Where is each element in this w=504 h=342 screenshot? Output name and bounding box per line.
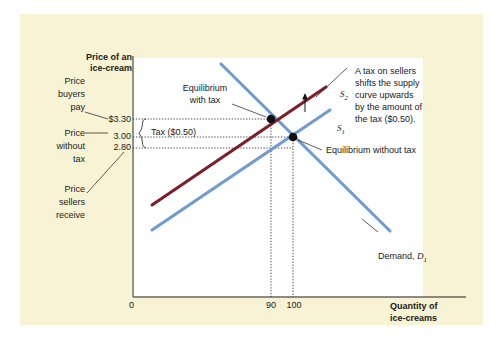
price-sellers-receive-line1: Price [40,184,85,195]
price-without-tax-line2: without [40,141,85,152]
price-tick-330: $3.30 [95,114,131,125]
price-tick-300: 3.00 [95,131,131,142]
price-buyers-pay-line3: pay [40,102,85,113]
supply-s1-label: S1 [327,112,345,149]
tax-bracket-label: Tax ($0.50) [151,127,196,138]
leader-sellers-receive [87,152,124,193]
tax-note-line4: by the amount of [355,102,422,113]
demand-label: Demand, D1 [368,240,427,277]
equilibrium-with-tax-label-line1: Equilibrium [165,83,245,94]
price-without-tax-line1: Price [40,128,85,139]
price-without-tax-line3: tax [40,154,85,165]
price-tick-280: 2.80 [95,142,131,153]
equilibrium-with-tax-label-line2: with tax [165,95,245,106]
y-axis-label-line2: ice-cream [60,63,132,74]
supply-s2-label: S2 [330,78,348,115]
equilibrium-without-tax-point [289,133,298,142]
x-axis-label-line1: Quantity of [390,301,438,312]
origin-label: 0 [129,300,134,311]
figure-root: Price of an ice-cream Price buyers pay $… [0,0,504,342]
x-axis-label-line2: ice-creams [390,313,437,324]
tax-note-line2: shifts the supply [355,78,420,89]
tax-note-line5: the tax ($0.50). [355,114,416,125]
tax-note-line1: A tax on sellers [355,66,416,77]
equilibrium-with-tax-point [267,115,276,124]
price-buyers-pay-line2: buyers [40,89,85,100]
price-sellers-receive-line3: receive [40,210,85,221]
price-sellers-receive-line2: sellers [40,197,85,208]
quantity-tick-100: 100 [281,300,307,311]
price-buyers-pay-line1: Price [40,76,85,87]
tax-note-line3: curve upwards [355,90,414,101]
y-axis-label-line1: Price of an [60,52,132,63]
